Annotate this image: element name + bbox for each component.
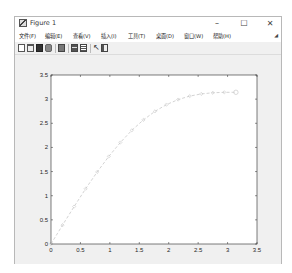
y-tick-label: 3.5 (40, 72, 49, 78)
window-title: Figure 1 (30, 18, 56, 29)
menu-tools[interactable]: 工具(T) (128, 31, 145, 41)
x-tick-label: 0 (49, 247, 53, 253)
new-figure-icon[interactable] (18, 44, 25, 52)
property-inspector-icon[interactable] (101, 44, 108, 52)
insert-colorbar-icon[interactable] (71, 44, 78, 52)
menu-desktop[interactable]: 桌面(D) (156, 31, 174, 41)
toolbar: ↖ (15, 42, 281, 55)
edit-plot-icon[interactable]: ↖ (93, 44, 100, 52)
menu-edit[interactable]: 编辑(E) (45, 31, 62, 41)
menu-view[interactable]: 查看(V) (73, 31, 91, 41)
matlab-figure-icon (19, 19, 27, 27)
print-icon[interactable] (45, 44, 52, 52)
y-tick-label: 3 (45, 96, 49, 102)
figure-window: Figure 1 – ☐ ✕ 文件(F) 编辑(E) 查看(V) 插入(I) 工… (14, 16, 282, 264)
figure-canvas: 00.511.522.533.500.511.522.533.5 (15, 55, 281, 264)
menu-window[interactable]: 窗口(W) (184, 31, 203, 41)
toolbar-separator (68, 44, 69, 53)
menu-help[interactable]: 帮助(H) (213, 31, 231, 41)
plot-area (51, 75, 257, 244)
x-tick-label: 1.5 (135, 247, 144, 253)
maximize-button[interactable]: ☐ (233, 17, 255, 30)
y-tick-label: 0 (45, 241, 49, 247)
toolbar-separator (90, 44, 91, 53)
toolbar-separator (55, 44, 56, 53)
axes[interactable]: 00.511.522.533.500.511.522.533.5 (15, 55, 283, 264)
menu-file[interactable]: 文件(F) (19, 31, 36, 41)
x-tick-label: 3 (226, 247, 230, 253)
insert-legend-icon[interactable] (80, 44, 87, 52)
title-bar: Figure 1 – ☐ ✕ (15, 17, 281, 30)
minimize-button[interactable]: – (206, 17, 228, 30)
y-tick-label: 2 (45, 144, 49, 150)
x-tick-label: 1 (108, 247, 112, 253)
menu-bar: 文件(F) 编辑(E) 查看(V) 插入(I) 工具(T) 桌面(D) 窗口(W… (15, 30, 281, 42)
menu-insert[interactable]: 插入(I) (101, 31, 117, 41)
link-plot-icon[interactable] (58, 44, 65, 52)
y-tick-label: 1.5 (40, 169, 49, 175)
y-tick-label: 2.5 (40, 120, 49, 126)
save-icon[interactable] (36, 44, 43, 52)
x-tick-label: 0.5 (76, 247, 85, 253)
y-tick-label: 0.5 (40, 217, 49, 223)
x-tick-label: 3.5 (253, 247, 262, 253)
dock-arrow-icon[interactable]: ◢ (274, 32, 278, 38)
open-file-icon[interactable] (27, 44, 34, 52)
x-tick-label: 2 (167, 247, 171, 253)
close-button[interactable]: ✕ (259, 17, 281, 30)
x-tick-label: 2.5 (194, 247, 203, 253)
y-tick-label: 1 (45, 193, 49, 199)
